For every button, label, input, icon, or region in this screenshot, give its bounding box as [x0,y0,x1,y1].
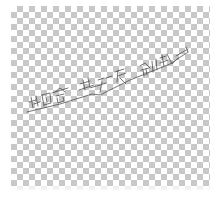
bottom-fade [0,186,224,197]
handwritten-sketch [0,0,224,197]
